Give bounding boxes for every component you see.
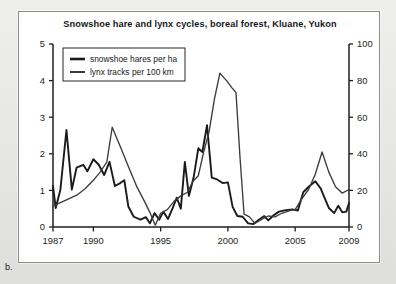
x-axis-tick-label: 1987	[43, 235, 64, 246]
left-axis-tick-label: 2	[40, 148, 45, 159]
right-axis-ticks: 020406080100	[349, 38, 373, 232]
x-axis-tick-label: 1990	[83, 235, 104, 246]
chart-legend: snowshoe hares per halynx tracks per 100…	[63, 48, 185, 81]
x-axis-tick-label: 2000	[217, 235, 238, 246]
x-axis-tick-label: 1995	[150, 235, 171, 246]
right-axis-tick-label: 80	[357, 75, 367, 86]
left-axis-ticks: 012345	[40, 38, 53, 232]
right-axis-tick-label: 0	[357, 221, 362, 232]
chart-panel: Snowshoe hare and lynx cycles, boreal fo…	[18, 11, 380, 263]
left-axis-tick-label: 1	[40, 185, 45, 196]
left-axis-tick-label: 3	[40, 112, 45, 123]
data-line-lynx	[53, 73, 349, 225]
data-series-group	[53, 73, 349, 225]
x-axis-tick-label: 2005	[285, 235, 306, 246]
legend-label: snowshoe hares per ha	[90, 54, 177, 64]
chart-plot: 012345 020406080100 19871990199520002005…	[19, 12, 381, 264]
figure-container: Snowshoe hare and lynx cycles, boreal fo…	[0, 0, 396, 284]
x-axis-ticks: 198719901995200020052009	[43, 227, 360, 246]
left-axis-tick-label: 5	[40, 38, 45, 49]
legend-label: lynx tracks per 100 km	[90, 67, 174, 77]
right-axis-tick-label: 60	[357, 112, 367, 123]
right-axis-tick-label: 20	[357, 185, 367, 196]
x-axis-tick-label: 2009	[339, 235, 360, 246]
right-axis-tick-label: 40	[357, 148, 367, 159]
right-axis-tick-label: 100	[357, 38, 373, 49]
left-axis-tick-label: 4	[40, 75, 45, 86]
left-axis-tick-label: 0	[40, 221, 45, 232]
panel-letter: b.	[5, 262, 13, 272]
